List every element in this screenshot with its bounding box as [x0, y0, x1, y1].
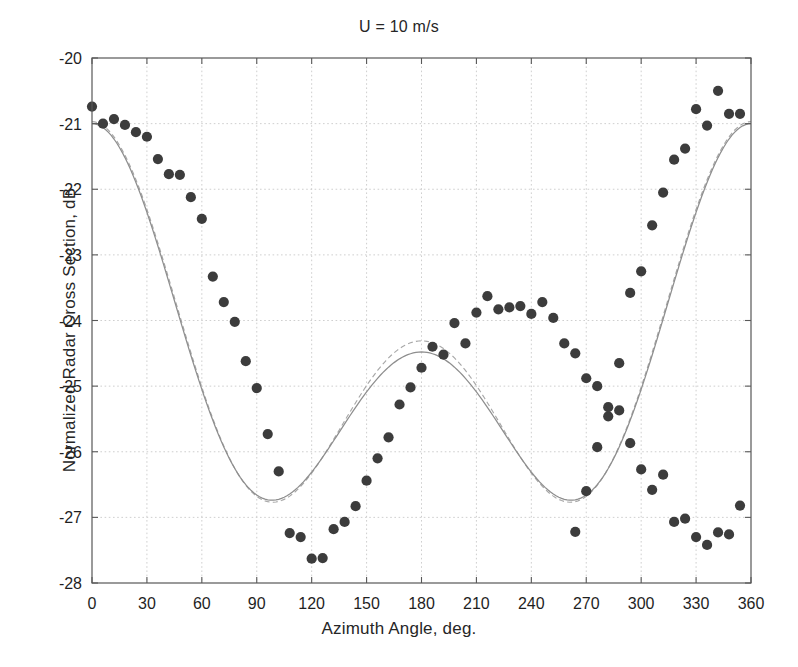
data-point — [724, 109, 734, 119]
x-tick-label: 300 — [628, 595, 655, 612]
data-point — [570, 527, 580, 537]
data-point — [592, 381, 602, 391]
data-point — [493, 304, 503, 314]
data-point — [230, 317, 240, 327]
data-points-layer — [87, 86, 745, 564]
data-point — [120, 120, 130, 130]
data-point — [537, 297, 547, 307]
x-tick-label: 330 — [683, 595, 710, 612]
data-point — [285, 528, 295, 538]
data-point — [482, 291, 492, 301]
data-point — [713, 527, 723, 537]
x-tick-label: 120 — [298, 595, 325, 612]
data-point — [394, 399, 404, 409]
x-tick-label: 90 — [248, 595, 266, 612]
data-point — [307, 554, 317, 564]
data-point — [504, 302, 514, 312]
data-point — [647, 485, 657, 495]
data-point — [669, 155, 679, 165]
data-point — [636, 266, 646, 276]
x-tick-label: 270 — [573, 595, 600, 612]
data-point — [559, 338, 569, 348]
data-point — [680, 514, 690, 524]
data-point — [713, 86, 723, 96]
data-point — [340, 517, 350, 527]
x-tick-label: 0 — [88, 595, 97, 612]
data-point — [724, 529, 734, 539]
data-point — [614, 358, 624, 368]
data-point — [252, 383, 262, 393]
data-point — [186, 192, 196, 202]
data-point — [515, 301, 525, 311]
data-point — [318, 553, 328, 563]
x-tick-label: 210 — [463, 595, 490, 612]
chart-figure: U = 10 m/s Normalized Radar Cross Sectio… — [0, 0, 798, 667]
data-point — [164, 169, 174, 179]
data-point — [197, 214, 207, 224]
data-point — [449, 318, 459, 328]
data-point — [526, 309, 536, 319]
data-point — [625, 288, 635, 298]
data-point — [383, 432, 393, 442]
data-point — [351, 501, 361, 511]
data-point — [691, 104, 701, 114]
data-point — [636, 464, 646, 474]
data-point — [625, 438, 635, 448]
data-point — [592, 442, 602, 452]
data-point — [361, 476, 371, 486]
data-point — [548, 313, 558, 323]
x-tick-label: 180 — [408, 595, 435, 612]
data-point — [219, 297, 229, 307]
x-tick-label: 360 — [738, 595, 765, 612]
data-point — [570, 348, 580, 358]
data-point — [131, 127, 141, 137]
x-tick-label: 150 — [353, 595, 380, 612]
data-point — [581, 373, 591, 383]
data-point — [274, 466, 284, 476]
data-point — [658, 470, 668, 480]
tick-label-layer: 0306090120150180210240270300330360-28-27… — [59, 50, 765, 612]
data-point — [427, 342, 437, 352]
data-point — [471, 308, 481, 318]
data-point — [263, 429, 273, 439]
data-point — [735, 109, 745, 119]
grid-layer — [92, 58, 751, 583]
data-point — [702, 540, 712, 550]
data-point — [735, 500, 745, 510]
plot-canvas: 0306090120150180210240270300330360-28-27… — [0, 0, 798, 667]
data-point — [691, 532, 701, 542]
data-point — [658, 187, 668, 197]
data-point — [175, 170, 185, 180]
x-tick-label: 240 — [518, 595, 545, 612]
data-point — [460, 338, 470, 348]
data-point — [329, 524, 339, 534]
x-axis-label: Azimuth Angle, deg. — [0, 619, 798, 639]
data-point — [372, 453, 382, 463]
x-tick-label: 60 — [193, 595, 211, 612]
data-point — [405, 382, 415, 392]
data-point — [98, 119, 108, 129]
data-point — [581, 486, 591, 496]
y-axis-label: Normalized Radar Cross Section, dB — [60, 130, 80, 530]
data-point — [296, 532, 306, 542]
data-point — [153, 154, 163, 164]
y-tick-label: -28 — [59, 575, 82, 592]
data-point — [438, 350, 448, 360]
x-tick-label: 30 — [138, 595, 156, 612]
data-point — [241, 356, 251, 366]
data-point — [603, 411, 613, 421]
data-point — [702, 120, 712, 130]
data-point — [109, 114, 119, 124]
data-point — [416, 363, 426, 373]
data-point — [603, 402, 613, 412]
data-point — [680, 143, 690, 153]
chart-title: U = 10 m/s — [0, 18, 798, 36]
data-point — [669, 517, 679, 527]
data-point — [647, 220, 657, 230]
data-point — [142, 132, 152, 142]
data-point — [614, 405, 624, 415]
y-tick-label: -20 — [59, 50, 82, 67]
data-point — [208, 271, 218, 281]
